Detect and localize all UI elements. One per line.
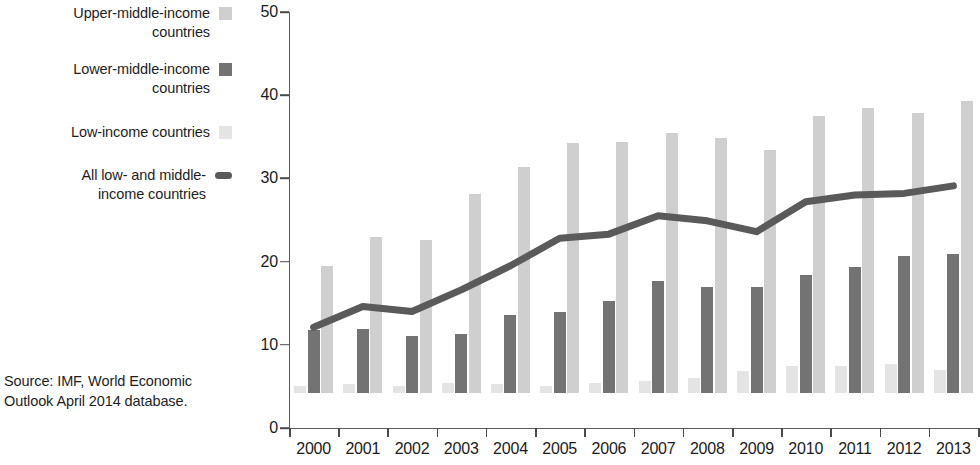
x-axis-tick-label: 2006: [591, 440, 626, 458]
x-axis-tick-label: 2004: [493, 440, 528, 458]
bar[interactable]: [518, 167, 530, 393]
bar[interactable]: [885, 364, 897, 393]
bar[interactable]: [357, 329, 369, 393]
legend-item-label: Lower-middle-income countries: [73, 60, 219, 98]
x-axis-tick-mark: [535, 428, 537, 437]
bar[interactable]: [652, 281, 664, 393]
bar[interactable]: [308, 330, 320, 393]
bar[interactable]: [504, 315, 516, 393]
y-axis: 01020304050: [236, 0, 278, 440]
bar[interactable]: [961, 101, 973, 393]
bar[interactable]: [406, 336, 418, 393]
legend-swatch-icon: [219, 63, 232, 76]
bar[interactable]: [491, 384, 503, 393]
x-axis-tick-mark: [387, 428, 389, 437]
bar[interactable]: [862, 108, 874, 393]
y-axis-tick-label: 0: [269, 419, 278, 437]
legend-item-label: All low- and middle- income countries: [81, 166, 215, 204]
x-axis-tick-mark: [486, 428, 488, 437]
bar[interactable]: [688, 378, 700, 393]
bar-group: [535, 0, 584, 393]
x-axis-tick-mark: [830, 428, 832, 437]
bar[interactable]: [294, 386, 306, 393]
bar[interactable]: [442, 383, 454, 393]
x-axis-tick-mark: [338, 428, 340, 437]
y-axis-tick-label: 50: [261, 3, 278, 21]
x-axis-tick-label: 2013: [936, 440, 971, 458]
x-axis-tick-mark: [732, 428, 734, 437]
x-axis-tick-label: 2008: [690, 440, 725, 458]
bar[interactable]: [603, 301, 615, 393]
bar-group: [929, 0, 978, 393]
bar-group: [781, 0, 830, 393]
x-axis-tick-label: 2011: [838, 440, 872, 458]
bar-group: [732, 0, 781, 393]
y-axis-tick-mark: [280, 94, 289, 96]
bars-layer: [289, 0, 978, 429]
bar[interactable]: [701, 287, 713, 393]
bar[interactable]: [666, 133, 678, 393]
y-axis-tick-label: 20: [261, 253, 278, 271]
legend-upper-middle-income[interactable]: Upper-middle-income countries: [0, 4, 232, 42]
bar[interactable]: [554, 312, 566, 393]
bar[interactable]: [813, 116, 825, 393]
bar[interactable]: [934, 370, 946, 393]
x-axis-tick-mark: [584, 428, 586, 437]
legend-line-marker-icon: [215, 172, 232, 179]
bar[interactable]: [947, 254, 959, 393]
x-axis-tick-label: 2000: [296, 440, 331, 458]
y-axis-tick-mark: [280, 11, 289, 13]
bar[interactable]: [786, 366, 798, 393]
bar[interactable]: [737, 371, 749, 393]
bar[interactable]: [321, 266, 333, 393]
bar[interactable]: [616, 142, 628, 393]
y-axis-tick-label: 40: [261, 86, 278, 104]
bar[interactable]: [343, 384, 355, 393]
bar-group: [880, 0, 929, 393]
bar[interactable]: [589, 383, 601, 393]
legend-lower-middle-income[interactable]: Lower-middle-income countries: [0, 60, 232, 98]
x-axis-tick-label: 2012: [887, 440, 922, 458]
bar-group: [387, 0, 436, 393]
y-axis-tick-mark: [280, 261, 289, 263]
bar[interactable]: [715, 138, 727, 393]
x-axis-tick-mark: [289, 428, 291, 437]
x-axis-tick-label: 2005: [542, 440, 577, 458]
legend-item-label: Low-income countries: [71, 123, 219, 142]
bar[interactable]: [849, 267, 861, 393]
x-axis-tick-label: 2009: [739, 440, 774, 458]
bar-group: [830, 0, 879, 393]
bar-group: [584, 0, 633, 393]
bar[interactable]: [898, 256, 910, 393]
bar[interactable]: [835, 366, 847, 393]
x-axis-tick-label: 2003: [444, 440, 479, 458]
bar-group: [683, 0, 732, 393]
bar[interactable]: [469, 194, 481, 393]
legend-low-income[interactable]: Low-income countries: [0, 123, 232, 142]
bar[interactable]: [540, 386, 552, 393]
y-axis-tick-label: 10: [261, 336, 278, 354]
bar[interactable]: [455, 334, 467, 393]
y-axis-tick-mark: [280, 178, 289, 180]
bar[interactable]: [639, 381, 651, 393]
bar[interactable]: [751, 287, 763, 393]
bar[interactable]: [912, 113, 924, 393]
x-axis-tick-mark: [880, 428, 882, 437]
bar[interactable]: [420, 240, 432, 393]
y-axis-tick-label: 30: [261, 169, 278, 187]
legend-item-label: Upper-middle-income countries: [73, 4, 219, 42]
bar-group: [634, 0, 683, 393]
bar[interactable]: [567, 143, 579, 393]
x-axis-tick-mark: [683, 428, 685, 437]
bar[interactable]: [393, 386, 405, 393]
bar[interactable]: [800, 275, 812, 393]
bar[interactable]: [370, 237, 382, 393]
x-axis-tick-mark: [634, 428, 636, 437]
x-axis-tick-mark: [781, 428, 783, 437]
legend-all-low-and-middle-income[interactable]: All low- and middle- income countries: [0, 166, 232, 204]
bar[interactable]: [764, 150, 776, 393]
x-axis-tick-label: 2010: [788, 440, 823, 458]
x-axis-tick-mark: [978, 428, 980, 437]
x-axis-tick-mark: [437, 428, 439, 437]
